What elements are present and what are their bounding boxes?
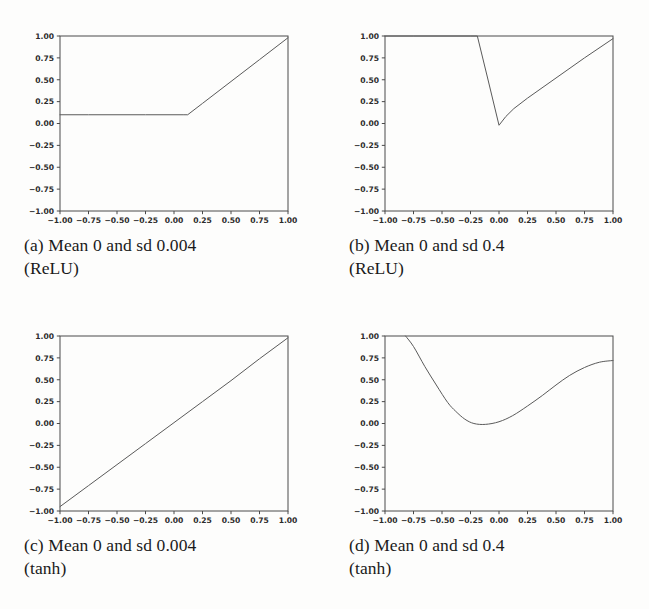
y-tick-label: −1.00: [29, 507, 54, 516]
caption-b-label: (b): [349, 235, 370, 255]
plot-d: −1.00−0.75−0.50−0.250.000.250.500.751.00…: [325, 312, 649, 534]
caption-c-label: (c): [24, 535, 44, 555]
x-tick-label: 0.75: [575, 216, 594, 225]
plot-b: −1.00−0.75−0.50−0.250.000.250.500.751.00…: [325, 12, 649, 234]
caption-d-line1: Mean 0 and sd 0.4: [374, 535, 505, 555]
y-tick-label: 0.50: [35, 76, 54, 85]
x-tick-label: −0.50: [104, 216, 129, 225]
figure-panel-d: −1.00−0.75−0.50−0.250.000.250.500.751.00…: [325, 312, 649, 609]
plot-c: −1.00−0.75−0.50−0.250.000.250.500.751.00…: [0, 312, 324, 534]
y-tick-label: −1.00: [354, 207, 379, 216]
y-tick-label: 0.75: [360, 354, 379, 363]
x-tick-label: 0.25: [193, 516, 212, 525]
caption-a-line2: (ReLU): [24, 257, 314, 280]
x-tick-label: −1.00: [372, 216, 397, 225]
x-tick-label: 0.00: [165, 216, 184, 225]
caption-d-line2: (tanh): [349, 557, 639, 580]
x-tick-label: 0.00: [490, 516, 509, 525]
data-line-relu-sd-0.4: [385, 36, 613, 125]
x-tick-label: 0.75: [250, 216, 269, 225]
y-tick-label: 0.75: [35, 354, 54, 363]
caption-d-label: (d): [349, 535, 370, 555]
plot-a: −1.00−0.75−0.50−0.250.000.250.500.751.00…: [0, 12, 324, 234]
y-tick-label: 0.25: [360, 397, 379, 406]
y-tick-label: −0.75: [29, 485, 54, 494]
x-tick-label: −0.25: [133, 516, 158, 525]
x-tick-label: 0.25: [518, 516, 537, 525]
y-tick-label: −0.25: [354, 141, 379, 150]
plot-b-svg: −1.00−0.75−0.50−0.250.000.250.500.751.00…: [325, 12, 649, 234]
y-tick-label: 0.75: [360, 54, 379, 63]
figure-panel-c: −1.00−0.75−0.50−0.250.000.250.500.751.00…: [0, 312, 324, 609]
x-tick-label: 1.00: [279, 516, 298, 525]
x-tick-label: 1.00: [604, 516, 623, 525]
y-tick-label: −0.75: [354, 485, 379, 494]
x-tick-label: −0.50: [429, 516, 454, 525]
y-tick-label: 0.50: [35, 376, 54, 385]
x-tick-label: −0.75: [76, 216, 101, 225]
y-tick-label: −0.50: [29, 463, 54, 472]
x-tick-label: −0.75: [401, 516, 426, 525]
plot-d-svg: −1.00−0.75−0.50−0.250.000.250.500.751.00…: [325, 312, 649, 534]
data-line-tanh-sd-0.004: [60, 338, 288, 507]
y-tick-label: 1.00: [35, 32, 54, 41]
y-tick-label: −0.25: [29, 441, 54, 450]
x-tick-label: 0.00: [165, 516, 184, 525]
y-tick-label: 0.00: [35, 119, 54, 128]
y-tick-label: −0.75: [354, 185, 379, 194]
y-tick-label: −0.75: [29, 185, 54, 194]
caption-c: (c) Mean 0 and sd 0.004 (tanh): [24, 534, 314, 580]
y-tick-label: −1.00: [354, 507, 379, 516]
y-tick-label: −0.25: [29, 141, 54, 150]
y-tick-label: 0.00: [35, 419, 54, 428]
y-tick-label: −0.50: [354, 463, 379, 472]
y-tick-label: −0.50: [354, 163, 379, 172]
caption-b-line2: (ReLU): [349, 257, 639, 280]
x-tick-label: 1.00: [279, 216, 298, 225]
figure-panel-a: −1.00−0.75−0.50−0.250.000.250.500.751.00…: [0, 12, 324, 312]
x-tick-label: −1.00: [47, 216, 72, 225]
x-tick-label: 0.50: [547, 216, 566, 225]
figure-grid: −1.00−0.75−0.50−0.250.000.250.500.751.00…: [0, 0, 649, 609]
x-tick-label: −0.50: [429, 216, 454, 225]
caption-c-line2: (tanh): [24, 557, 314, 580]
x-tick-label: −0.25: [458, 216, 483, 225]
x-tick-label: 0.25: [518, 216, 537, 225]
x-tick-label: −0.50: [104, 516, 129, 525]
x-tick-label: −0.75: [76, 516, 101, 525]
data-line-tanh-sd-0.4: [406, 336, 613, 424]
x-tick-label: 1.00: [604, 216, 623, 225]
y-tick-label: 0.75: [35, 54, 54, 63]
y-tick-label: 1.00: [360, 332, 379, 341]
data-line-relu-sd-0.004: [60, 38, 288, 115]
figure-panel-b: −1.00−0.75−0.50−0.250.000.250.500.751.00…: [325, 12, 649, 312]
x-tick-label: 0.25: [193, 216, 212, 225]
y-tick-label: 0.25: [360, 97, 379, 106]
y-tick-label: 0.50: [360, 376, 379, 385]
y-tick-label: −1.00: [29, 207, 54, 216]
x-tick-label: 0.50: [222, 216, 241, 225]
y-tick-label: 0.25: [35, 97, 54, 106]
caption-a-label: (a): [24, 235, 44, 255]
x-tick-label: 0.75: [575, 516, 594, 525]
plot-c-svg: −1.00−0.75−0.50−0.250.000.250.500.751.00…: [0, 312, 324, 534]
x-tick-label: −0.25: [458, 516, 483, 525]
y-tick-label: 0.25: [35, 397, 54, 406]
x-tick-label: 0.75: [250, 516, 269, 525]
caption-a-line1: Mean 0 and sd 0.004: [48, 235, 196, 255]
caption-d: (d) Mean 0 and sd 0.4 (tanh): [349, 534, 639, 580]
caption-b: (b) Mean 0 and sd 0.4 (ReLU): [349, 234, 639, 280]
x-tick-label: −1.00: [47, 516, 72, 525]
y-tick-label: 0.50: [360, 76, 379, 85]
x-tick-label: 0.00: [490, 216, 509, 225]
y-tick-label: 0.00: [360, 419, 379, 428]
x-tick-label: −0.75: [401, 216, 426, 225]
caption-c-line1: Mean 0 and sd 0.004: [48, 535, 196, 555]
y-tick-label: 0.00: [360, 119, 379, 128]
y-tick-label: 1.00: [360, 32, 379, 41]
y-tick-label: −0.25: [354, 441, 379, 450]
y-tick-label: −0.50: [29, 163, 54, 172]
x-tick-label: −0.25: [133, 216, 158, 225]
plot-a-svg: −1.00−0.75−0.50−0.250.000.250.500.751.00…: [0, 12, 324, 234]
x-tick-label: 0.50: [547, 516, 566, 525]
